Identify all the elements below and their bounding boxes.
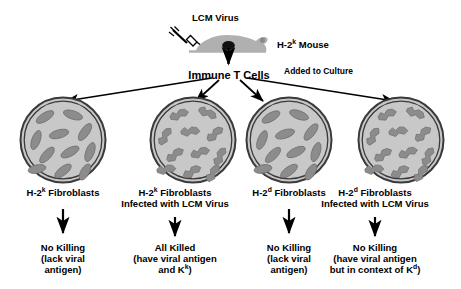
dish-caption-1: H-2k Fibroblasts [27,187,100,198]
figure-root: LCM Virus H-2k Mouse Immune T Cells Adde… [0,0,461,289]
outcome-4-line3: but in context of Kd) [330,264,421,275]
dish-1-pre: H-2 [27,187,42,198]
outcome-1-line1: No Killing [41,242,85,253]
outcome-4: No Killing (have viral antigen but in co… [330,242,421,276]
dish-h2k-infected [151,98,236,184]
outcome-2-post: ) [189,264,192,275]
dish-caption-2-line2: Infected with LCM Virus [121,198,229,209]
outcome-3: No Killing (lack viral antigen) [267,242,311,276]
outcome-3-pre: antigen) [271,264,308,275]
outcome-2-line2: (have viral antigen [133,253,216,264]
dish-2-pre: H-2 [139,187,154,198]
dish-4-pre: H-2 [338,187,353,198]
lcm-virus-label: LCM Virus [192,12,239,23]
dish-caption-3-line1: H-2d Fibroblasts [252,187,325,198]
outcome-1-line2: (lack viral [41,253,85,264]
outcome-2-pre: and K [158,264,184,275]
immune-t-cells-label: Immune T Cells [188,69,269,82]
outcome-2: All Killed (have viral antigen and Kk) [133,242,216,276]
dish-caption-1-line1: H-2k Fibroblasts [27,187,100,198]
outcome-2-line3: and Kk) [133,264,216,275]
dish-2-post: Fibroblasts [158,187,212,198]
outcome-3-line3: antigen) [267,264,311,275]
outcome-1-pre: antigen) [45,264,82,275]
mouse-label-pre: H-2 [277,39,292,50]
outcome-4-line2: (have viral antigen [330,253,421,264]
outcome-4-line1: No Killing [330,242,421,253]
outcome-4-pre: but in context of K [330,264,413,275]
outcome-1-line3: antigen) [41,264,85,275]
dish-h2d-uninfected [247,98,332,183]
dish-3-pre: H-2 [252,187,267,198]
dish-h2k-uninfected [21,98,106,183]
dish-caption-4: H-2d Fibroblasts Infected with LCM Virus [321,187,429,209]
mouse-label-post: Mouse [296,39,329,50]
arrow-to-dish-3 [240,80,263,101]
outcome-2-line1: All Killed [133,242,216,253]
outcome-4-post: ) [417,264,420,275]
added-to-culture-label: Added to Culture [284,66,353,76]
outcome-3-line2: (lack viral [267,253,311,264]
dish-caption-4-line2: Infected with LCM Virus [321,198,429,209]
dish-caption-2: H-2k Fibroblasts Infected with LCM Virus [121,187,229,209]
dish-1-post: Fibroblasts [46,187,100,198]
dish-caption-4-line1: H-2d Fibroblasts [321,187,429,198]
mouse-label: H-2k Mouse [277,39,329,50]
dish-h2d-infected [359,98,444,184]
dish-caption-2-line1: H-2k Fibroblasts [121,187,229,198]
dish-3-post: Fibroblasts [272,187,326,198]
outcome-1: No Killing (lack viral antigen) [41,242,85,276]
dish-4-post: Fibroblasts [358,187,412,198]
dish-caption-3: H-2d Fibroblasts [252,187,325,198]
outcome-3-line1: No Killing [267,242,311,253]
